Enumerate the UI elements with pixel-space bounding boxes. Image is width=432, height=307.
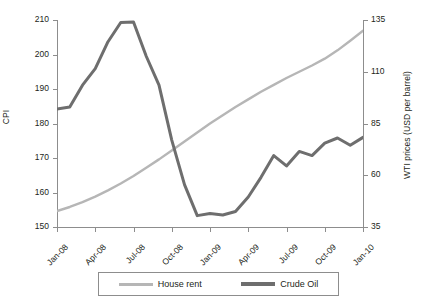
y-axis-left-tick-label: 180 (25, 118, 49, 128)
y-axis-left-tick-label: 190 (25, 83, 49, 93)
y-axis-right-tick-mark (364, 227, 368, 228)
y-axis-left-title: CPI (1, 97, 11, 137)
x-axis-tick-label: Jan-10 (336, 242, 376, 282)
x-axis-tick-mark (172, 228, 173, 232)
y-axis-right-tick-label: 110 (371, 66, 395, 76)
legend-swatch-icon (241, 282, 275, 286)
y-axis-left-tick-label: 160 (25, 187, 49, 197)
legend-label: House rent (158, 279, 202, 289)
legend-label: Crude Oil (280, 279, 318, 289)
plot-area (57, 20, 363, 227)
x-axis-tick-mark (210, 228, 211, 232)
legend-item-house-rent[interactable]: House rent (119, 279, 202, 289)
y-axis-right-tick-label: 60 (371, 169, 395, 179)
y-axis-left-tick-label: 200 (25, 49, 49, 59)
series-lines (57, 20, 363, 227)
x-axis-tick-mark (134, 228, 135, 232)
x-axis-tick-mark (363, 228, 364, 232)
y-axis-left-tick-label: 210 (25, 14, 49, 24)
legend-swatch-icon (119, 283, 153, 286)
x-axis-tick-label: Jan-08 (30, 242, 70, 282)
x-axis-tick-mark (95, 228, 96, 232)
chart-figure: CPI WTI prices (USD per barrel) 15016017… (0, 0, 432, 307)
chart-legend: House rentCrude Oil (98, 272, 339, 296)
y-axis-right-tick-mark (364, 124, 368, 125)
y-axis-left-tick-label: 170 (25, 152, 49, 162)
y-axis-right-tick-mark (364, 72, 368, 73)
y-axis-right-tick-label: 85 (371, 118, 395, 128)
series-line-crude-oil (57, 22, 363, 216)
series-line-house-rent (57, 31, 363, 211)
y-axis-left-tick-label: 150 (25, 221, 49, 231)
y-axis-right-tick-mark (364, 175, 368, 176)
y-axis-right-tick-label: 135 (371, 14, 395, 24)
y-axis-right-tick-mark (364, 20, 368, 21)
y-axis-right-title: WTI prices (USD per barrel) (402, 40, 412, 210)
y-axis-right-tick-label: 35 (371, 221, 395, 231)
x-axis-tick-mark (287, 228, 288, 232)
legend-item-crude-oil[interactable]: Crude Oil (241, 279, 318, 289)
x-axis-tick-mark (57, 228, 58, 232)
x-axis-tick-mark (325, 228, 326, 232)
x-axis-tick-mark (248, 228, 249, 232)
